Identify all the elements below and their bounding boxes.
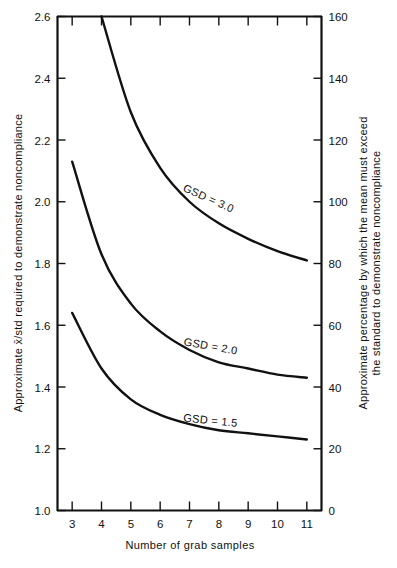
bottom-tick-label: 7 [186, 518, 192, 530]
x-axis-title: Number of grab samples [125, 539, 254, 551]
right-axis-ticks [314, 17, 322, 511]
right-tick-label: 20 [329, 443, 342, 455]
bottom-axis-ticks [72, 502, 307, 511]
right-tick-label: 40 [329, 382, 342, 394]
right-tick-label: 140 [329, 73, 348, 85]
y-axis-left-title: Approximate x̄/std required to demonstra… [12, 114, 24, 413]
right-tick-label: 0 [329, 505, 335, 517]
bottom-tick-label: 10 [271, 518, 284, 530]
right-tick-label: 80 [329, 258, 342, 270]
bottom-tick-label: 9 [245, 518, 251, 530]
bottom-tick-label: 11 [301, 518, 313, 530]
bottom-tick-label: 3 [69, 518, 75, 530]
chart-canvas: 1.01.21.41.61.82.02.22.42.6 020406080100… [0, 0, 397, 568]
y-axis-right-title-line2: the standard to demonstrate noncomplianc… [370, 151, 382, 376]
left-tick-label: 2.4 [35, 73, 52, 85]
right-axis-tick-labels: 020406080100120140160 [329, 11, 348, 517]
left-tick-label: 1.4 [35, 382, 52, 394]
right-tick-label: 120 [329, 135, 348, 147]
left-tick-label: 1.0 [35, 505, 51, 517]
left-axis-ticks [58, 17, 66, 511]
left-tick-label: 1.2 [35, 443, 51, 455]
bottom-axis-tick-labels: 34567891011 [69, 518, 313, 530]
left-tick-label: 2.0 [35, 196, 51, 208]
curve-gsd-3-0 [102, 17, 307, 261]
curve-label-gsd-2-0: GSD = 2.0 [183, 335, 239, 356]
left-tick-label: 1.6 [35, 320, 51, 332]
curve-label-gsd-3-0: GSD = 3.0 [181, 182, 236, 215]
right-tick-label: 100 [329, 196, 348, 208]
bottom-tick-label: 8 [216, 518, 222, 530]
top-axis-ticks [72, 17, 307, 26]
right-tick-label: 160 [329, 11, 348, 23]
data-curves [72, 17, 307, 440]
chart-figure: 1.01.21.41.61.82.02.22.42.6 020406080100… [0, 0, 397, 568]
left-tick-label: 2.6 [35, 11, 51, 23]
curve-label-gsd-1-5: GSD = 1.5 [183, 411, 238, 429]
bottom-tick-label: 4 [98, 518, 105, 530]
right-tick-label: 60 [329, 320, 342, 332]
bottom-tick-label: 5 [128, 518, 134, 530]
left-tick-label: 1.8 [35, 258, 51, 270]
y-axis-right-title-line1: Approximate percentage by which the mean… [357, 116, 369, 409]
left-axis-tick-labels: 1.01.21.41.61.82.02.22.42.6 [35, 11, 52, 517]
bottom-tick-label: 6 [157, 518, 163, 530]
left-tick-label: 2.2 [35, 135, 51, 147]
